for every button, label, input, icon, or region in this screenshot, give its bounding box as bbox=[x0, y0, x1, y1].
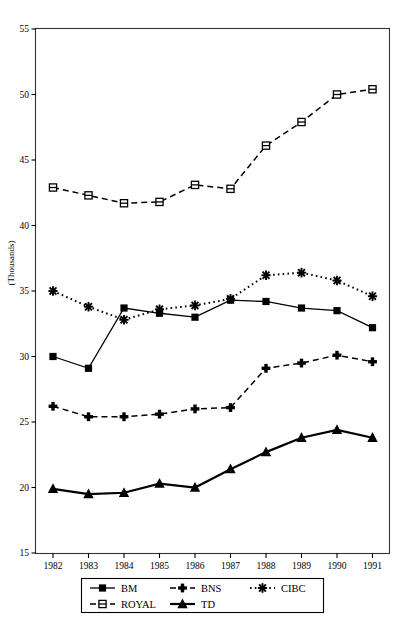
x-tick-label: 1988 bbox=[257, 561, 276, 571]
y-tick-label: 35 bbox=[20, 286, 30, 296]
data-point-marker bbox=[49, 353, 56, 360]
data-point-marker bbox=[191, 405, 200, 414]
x-tick-label: 1985 bbox=[150, 561, 169, 571]
series-line bbox=[53, 355, 373, 417]
data-point-marker bbox=[297, 268, 306, 278]
data-point-marker bbox=[227, 185, 234, 192]
data-point-marker bbox=[84, 412, 93, 421]
data-point-marker bbox=[85, 365, 92, 372]
x-tick-label: 1991 bbox=[363, 561, 382, 571]
data-point-marker bbox=[190, 301, 199, 311]
series-bm bbox=[49, 297, 376, 372]
data-point-marker bbox=[333, 307, 340, 314]
y-tick-label: 55 bbox=[20, 24, 30, 34]
plot-frame bbox=[36, 29, 390, 554]
legend-label: ROYAL bbox=[121, 599, 156, 610]
legend-label: TD bbox=[201, 599, 215, 610]
legend-marker bbox=[99, 584, 106, 591]
y-tick-label: 25 bbox=[20, 417, 30, 427]
series-line bbox=[53, 430, 373, 494]
y-tick-label: 20 bbox=[20, 483, 30, 493]
data-point-marker bbox=[262, 298, 269, 305]
series-td bbox=[48, 424, 378, 498]
data-point-marker bbox=[120, 200, 127, 207]
data-point-marker bbox=[155, 305, 164, 315]
data-point-marker bbox=[261, 270, 270, 280]
x-tick-label: 1987 bbox=[221, 561, 240, 571]
y-tick-label: 15 bbox=[20, 548, 30, 558]
series-bns bbox=[49, 351, 377, 421]
legend-label: BNS bbox=[201, 583, 222, 594]
data-point-marker bbox=[368, 357, 377, 366]
x-tick-label: 1990 bbox=[328, 561, 347, 571]
data-point-marker bbox=[119, 315, 128, 325]
data-point-marker bbox=[120, 304, 127, 311]
legend-label: BM bbox=[121, 583, 138, 594]
x-tick-label: 1989 bbox=[292, 561, 311, 571]
data-point-marker bbox=[298, 304, 305, 311]
x-tick-label: 1986 bbox=[186, 561, 205, 571]
y-tick-label: 50 bbox=[20, 90, 30, 100]
series-line bbox=[53, 89, 373, 203]
legend-marker bbox=[258, 583, 267, 593]
legend-label: CIBC bbox=[281, 583, 306, 594]
data-point-marker bbox=[298, 118, 305, 125]
data-point-marker bbox=[85, 192, 92, 199]
legend-marker bbox=[99, 600, 106, 607]
data-point-marker bbox=[48, 286, 57, 296]
data-point-marker bbox=[226, 294, 235, 304]
x-tick-label: 1983 bbox=[79, 561, 98, 571]
y-tick-label: 45 bbox=[20, 155, 30, 165]
x-tick-label: 1984 bbox=[115, 561, 134, 571]
data-point-marker bbox=[48, 483, 58, 493]
data-point-marker bbox=[297, 359, 306, 368]
data-point-marker bbox=[368, 291, 377, 301]
data-point-marker bbox=[262, 364, 271, 373]
data-point-marker bbox=[332, 424, 342, 434]
data-series-group bbox=[48, 86, 378, 499]
data-point-marker bbox=[191, 314, 198, 321]
data-point-marker bbox=[369, 86, 376, 93]
data-point-marker bbox=[49, 402, 58, 411]
data-point-marker bbox=[333, 351, 342, 360]
data-point-marker bbox=[333, 91, 340, 98]
y-axis-ticks: 152025303540455055 bbox=[20, 24, 37, 558]
data-point-marker bbox=[49, 184, 56, 191]
data-point-marker bbox=[156, 198, 163, 205]
data-point-marker bbox=[84, 302, 93, 312]
chart-legend: BMBNSCIBCROYALTD bbox=[82, 579, 324, 613]
chart-container: (Thousands) 152 bbox=[0, 0, 405, 618]
series-cibc bbox=[48, 268, 377, 325]
line-chart: 152025303540455055 198219831984198519861… bbox=[0, 0, 405, 618]
x-tick-label: 1982 bbox=[44, 561, 63, 571]
y-tick-label: 40 bbox=[20, 221, 30, 231]
data-point-marker bbox=[155, 410, 164, 419]
data-point-marker bbox=[191, 181, 198, 188]
data-point-marker bbox=[369, 324, 376, 331]
series-royal bbox=[49, 86, 376, 207]
data-point-marker bbox=[332, 276, 341, 286]
x-axis-ticks: 1982198319841985198619871988198919901991 bbox=[44, 553, 383, 571]
y-tick-label: 30 bbox=[20, 352, 30, 362]
data-point-marker bbox=[120, 412, 129, 421]
data-point-marker bbox=[262, 142, 269, 149]
series-line bbox=[53, 273, 373, 320]
